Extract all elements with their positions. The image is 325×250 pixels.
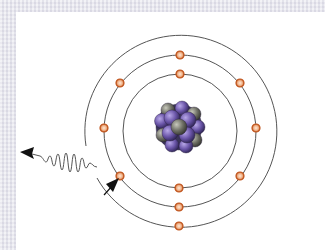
arrowhead-left-icon	[20, 147, 34, 159]
electron	[100, 124, 108, 132]
atom-diagram	[0, 0, 325, 250]
electron	[236, 79, 244, 87]
electron	[116, 172, 124, 180]
electron	[175, 203, 183, 211]
photon-wave-icon	[20, 147, 97, 172]
electron	[252, 124, 260, 132]
electron	[176, 70, 184, 78]
electron	[116, 79, 124, 87]
electron	[176, 51, 184, 59]
transition-arrow-icon	[104, 178, 119, 195]
nucleus	[155, 101, 206, 153]
electron	[236, 172, 244, 180]
electron	[175, 222, 183, 230]
electron	[175, 184, 183, 192]
